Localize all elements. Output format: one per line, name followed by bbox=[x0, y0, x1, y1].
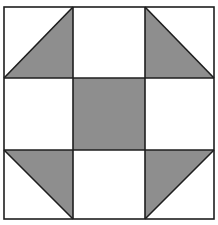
cell-1-1-square bbox=[73, 78, 145, 150]
quilt-block-diagram bbox=[0, 0, 218, 225]
